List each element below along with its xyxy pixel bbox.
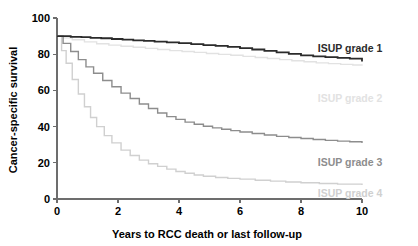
x-axis-title: Years to RCC death or last follow-up — [112, 228, 302, 240]
x-tick-label: 10 — [356, 205, 368, 217]
x-axis: 0246810 — [54, 199, 368, 217]
series-label-grade-2: ISUP grade 2 — [318, 92, 383, 104]
y-tick-label: 40 — [38, 121, 50, 133]
y-tick-label: 0 — [44, 193, 50, 205]
x-tick-label: 2 — [115, 205, 121, 217]
kaplan-meier-plot: 020406080100 0246810 ISUP grade 1ISUP gr… — [0, 0, 418, 246]
series-label-grade-1: ISUP grade 1 — [318, 42, 383, 54]
y-axis-title: Cancer-specific survival — [7, 47, 19, 174]
y-tick-label: 100 — [32, 12, 50, 24]
survival-curve-1 — [57, 36, 362, 61]
survival-curve-2 — [57, 36, 362, 66]
survival-curve-4 — [57, 36, 362, 185]
survival-chart-figure: 020406080100 0246810 ISUP grade 1ISUP gr… — [0, 0, 418, 246]
x-tick-label: 0 — [54, 205, 60, 217]
series-label-grade-3: ISUP grade 3 — [318, 156, 383, 168]
y-tick-label: 60 — [38, 84, 50, 96]
x-tick-label: 8 — [298, 205, 304, 217]
survival-curves — [57, 36, 362, 185]
series-labels: ISUP grade 1ISUP grade 2ISUP grade 3ISUP… — [318, 42, 383, 199]
x-tick-label: 6 — [237, 205, 243, 217]
series-label-grade-4: ISUP grade 4 — [318, 187, 383, 199]
y-tick-label: 20 — [38, 157, 50, 169]
y-tick-label: 80 — [38, 48, 50, 60]
y-axis: 020406080100 — [32, 12, 57, 205]
x-tick-label: 4 — [176, 205, 183, 217]
